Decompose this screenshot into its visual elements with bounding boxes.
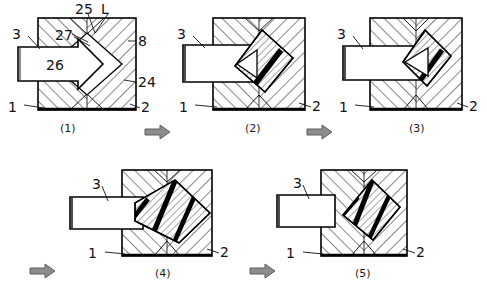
panel-stage-1: 25 L 27 3 26 8 24 1 2 (1) <box>0 0 160 145</box>
label-8: 8 <box>138 33 147 49</box>
label-2: 2 <box>469 98 478 114</box>
punch-bar <box>277 195 335 227</box>
panel-3-drawing <box>327 0 487 145</box>
punch-bar <box>70 197 143 229</box>
label-25: 25 <box>75 1 93 17</box>
label-L: L <box>101 1 109 17</box>
figure-root: 25 L 27 3 26 8 24 1 2 (1) <box>0 0 487 289</box>
panel-1-drawing <box>0 0 160 145</box>
label-2: 2 <box>220 244 229 260</box>
panel-stage-5: 3 1 2 (5) <box>255 155 450 289</box>
panel-stage-3: 3 1 2 (3) <box>327 0 487 145</box>
panel-5-drawing <box>255 155 450 289</box>
panel-4-drawing <box>55 155 250 289</box>
label-24: 24 <box>138 74 156 90</box>
label-3: 3 <box>293 175 302 191</box>
flow-arrow-4-5 <box>248 262 278 280</box>
panel-1-caption: (1) <box>60 122 76 135</box>
label-2: 2 <box>312 98 321 114</box>
label-3: 3 <box>177 26 186 42</box>
label-2: 2 <box>141 99 150 115</box>
flow-arrow-2-3 <box>305 123 335 141</box>
panel-5-caption: (5) <box>355 267 371 280</box>
label-3: 3 <box>92 176 101 192</box>
flow-arrow-1-2 <box>143 123 173 141</box>
panel-4-caption: (4) <box>155 267 171 280</box>
label-1: 1 <box>88 245 97 261</box>
label-1: 1 <box>339 99 348 115</box>
label-3: 3 <box>12 26 21 42</box>
panel-3-caption: (3) <box>409 122 425 135</box>
panel-stage-4: 3 1 2 (4) <box>55 155 250 289</box>
label-1: 1 <box>286 245 295 261</box>
label-1: 1 <box>8 99 17 115</box>
label-26: 26 <box>46 57 64 73</box>
flow-arrow-3-4 <box>28 262 58 280</box>
panel-2-caption: (2) <box>245 122 261 135</box>
label-27: 27 <box>55 27 73 43</box>
label-1: 1 <box>179 99 188 115</box>
label-2: 2 <box>416 244 425 260</box>
label-3: 3 <box>337 26 346 42</box>
